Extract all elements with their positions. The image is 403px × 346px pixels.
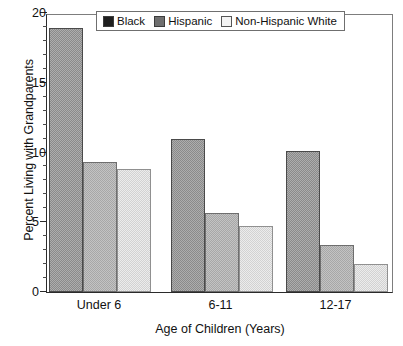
y-axis-tick-label: 5 — [32, 215, 37, 229]
bar — [171, 139, 205, 292]
y-axis-tick-label: 20 — [32, 6, 37, 20]
legend-label: Black — [117, 15, 145, 27]
y-axis-minor-tick — [43, 96, 47, 97]
legend-swatch-icon — [103, 16, 114, 27]
bar — [117, 169, 151, 292]
y-axis-tick-label: 10 — [32, 146, 37, 160]
legend-swatch-icon — [221, 16, 232, 27]
legend-item: Black — [103, 15, 145, 27]
legend-label: Hispanic — [168, 15, 212, 27]
legend-item: Hispanic — [154, 15, 212, 27]
y-axis-minor-tick — [43, 249, 47, 250]
x-axis-category-label: 12-17 — [320, 298, 352, 312]
y-axis-major-tick — [40, 221, 47, 222]
y-axis-minor-tick — [43, 26, 47, 27]
y-axis-minor-tick — [43, 277, 47, 278]
x-axis-title: Age of Children (Years) — [46, 322, 394, 336]
x-axis-category-label: Under 6 — [77, 298, 121, 312]
bar — [354, 264, 388, 292]
y-axis-minor-tick — [43, 40, 47, 41]
y-axis-minor-tick — [43, 124, 47, 125]
y-axis-minor-tick — [43, 193, 47, 194]
chart-legend: BlackHispanicNon-Hispanic White — [96, 11, 345, 31]
legend-item: Non-Hispanic White — [221, 15, 337, 27]
y-axis-minor-tick — [43, 138, 47, 139]
bar-chart: Percent Living with Grandparents 0510152… — [0, 0, 403, 346]
y-axis-minor-tick — [43, 207, 47, 208]
bar — [286, 151, 320, 292]
y-axis-minor-tick — [43, 179, 47, 180]
y-axis-minor-tick — [43, 263, 47, 264]
legend-swatch-icon — [154, 16, 165, 27]
bar — [320, 245, 354, 292]
plot-area: 05101520 — [46, 14, 393, 293]
y-axis-minor-tick — [43, 165, 47, 166]
bar — [239, 226, 273, 292]
y-axis-minor-tick — [43, 110, 47, 111]
y-axis-minor-tick — [43, 235, 47, 236]
y-axis-minor-tick — [43, 54, 47, 55]
legend-label: Non-Hispanic White — [235, 15, 337, 27]
y-axis-minor-tick — [43, 68, 47, 69]
bar — [205, 213, 239, 293]
y-axis-major-tick — [40, 291, 47, 292]
bar — [83, 162, 117, 292]
x-axis-category-label: 6-11 — [208, 298, 232, 312]
bar — [49, 28, 83, 292]
y-axis-tick-label: 15 — [32, 76, 37, 90]
y-axis-tick-label: 0 — [32, 285, 37, 299]
